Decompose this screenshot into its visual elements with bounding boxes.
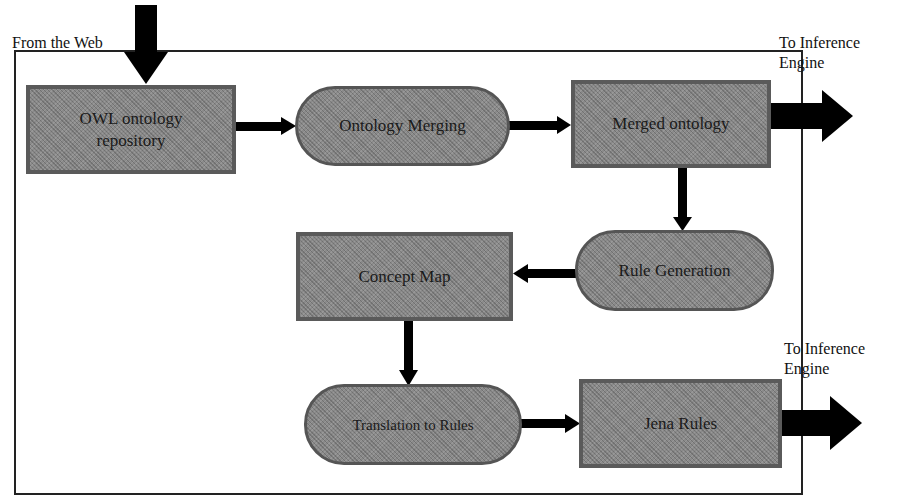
node-label: Rule Generation [619, 260, 731, 282]
to-inference-engine-label-top: To Inference Engine [779, 33, 860, 73]
node-jena-rules: Jena Rules [579, 379, 782, 468]
node-translation-to-rules: Translation to Rules [304, 384, 522, 465]
node-concept-map: Concept Map [296, 232, 513, 321]
node-label: Jena Rules [644, 413, 717, 435]
to-inference-line-1: To Inference [779, 33, 860, 53]
node-label: Ontology Merging [339, 115, 466, 137]
node-label: Concept Map [358, 266, 450, 288]
node-merged-ontology: Merged ontology [571, 80, 771, 168]
node-label-line: OWL ontology [80, 108, 183, 130]
to-inference-engine-label-bottom: To Inference Engine [784, 339, 865, 379]
to-inference-line-2: Engine [779, 53, 860, 73]
node-ontology-merging: Ontology Merging [295, 86, 510, 166]
from-the-web-label: From the Web [12, 33, 103, 53]
node-label: Merged ontology [612, 113, 729, 135]
to-inference-line-2: Engine [784, 359, 865, 379]
node-label-line: repository [80, 130, 183, 152]
to-inference-line-1: To Inference [784, 339, 865, 359]
node-label: Translation to Rules [352, 414, 473, 436]
node-owl-ontology-repository: OWL ontology repository [26, 85, 236, 174]
node-rule-generation: Rule Generation [575, 230, 774, 311]
